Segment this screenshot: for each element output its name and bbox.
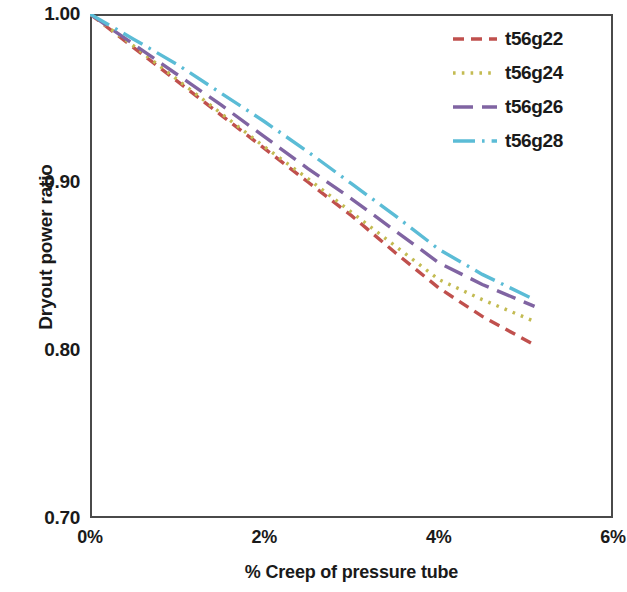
legend-item-t56g22: t56g22 [452, 22, 604, 56]
y-tick-label: 0.70 [0, 508, 80, 527]
y-tick-label: 0.90 [0, 172, 80, 191]
legend-item-t56g28: t56g28 [452, 124, 604, 158]
y-tick-label: 1.00 [0, 4, 80, 23]
x-tick-label: 6% [573, 528, 627, 546]
x-axis-title: % Creep of pressure tube [90, 562, 613, 583]
legend-item-t56g24: t56g24 [452, 56, 604, 90]
legend-item-t56g26: t56g26 [452, 90, 604, 124]
legend-swatch-icon [452, 134, 498, 148]
chart-figure: Dryout power ratio % Creep of pressure t… [0, 0, 627, 592]
y-tick-label: 0.80 [0, 340, 80, 359]
legend-swatch-icon [452, 100, 498, 114]
chart-legend: t56g22t56g24t56g26t56g28 [452, 20, 604, 162]
x-tick-label: 2% [224, 528, 304, 546]
x-tick-label: 4% [399, 528, 479, 546]
legend-label: t56g26 [505, 96, 563, 118]
legend-label: t56g22 [505, 28, 563, 50]
legend-swatch-icon [452, 66, 498, 80]
x-tick-label: 0% [50, 528, 130, 546]
legend-swatch-icon [452, 32, 498, 46]
legend-label: t56g28 [505, 130, 563, 152]
legend-label: t56g24 [505, 62, 563, 84]
